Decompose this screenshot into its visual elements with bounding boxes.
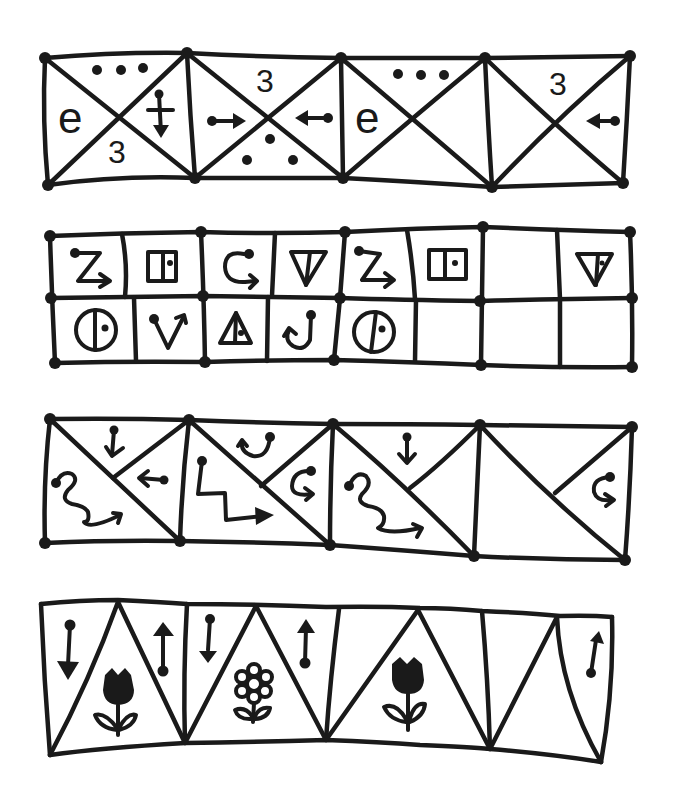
c-hook-symbol xyxy=(594,472,615,506)
c-hook-symbol xyxy=(292,466,316,500)
j-hook-symbol xyxy=(284,310,316,348)
circle-dot-symbol xyxy=(76,310,116,350)
row-4-triangle-pattern xyxy=(41,600,612,762)
row-2-grid-pattern xyxy=(44,221,638,373)
u-hook-symbol xyxy=(238,432,275,456)
number-3-symbol: 3 xyxy=(256,63,274,99)
triangle-down-dot-symbol xyxy=(291,252,326,285)
dots-three-symbol xyxy=(393,69,449,80)
arrow-left-symbol xyxy=(586,113,620,129)
arrow-left-symbol xyxy=(139,471,169,486)
letter-e-symbol: e xyxy=(58,93,82,142)
z-arrow-symbol xyxy=(354,246,394,287)
arrow-down-crossed-symbol xyxy=(148,90,173,139)
v-arrow-symbol xyxy=(149,314,186,348)
door-symbol xyxy=(429,250,466,279)
z-arrow-symbol xyxy=(70,248,110,287)
triangle-up-dot-symbol xyxy=(220,313,251,343)
tulip-symbol xyxy=(95,668,136,735)
letter-e-symbol: e xyxy=(355,93,379,142)
arrow-up-symbol xyxy=(586,631,604,678)
row-3-diagonal-pattern xyxy=(39,413,638,566)
number-3-symbol: 3 xyxy=(549,66,567,102)
wave-arrow-symbol xyxy=(344,474,422,537)
arrow-up-symbol xyxy=(297,619,315,669)
circle-dot-symbol xyxy=(354,312,394,352)
dots-triangle-symbol xyxy=(242,134,298,165)
zigzag-arrow-symbol xyxy=(197,456,274,525)
number-3-symbol: 3 xyxy=(108,134,126,170)
arrow-down-symbol xyxy=(399,433,415,464)
dots-three-symbol xyxy=(92,63,148,75)
arrow-right-symbol xyxy=(207,113,246,129)
pattern-worksheet: e 3 3 e 3 xyxy=(0,0,680,810)
flower-symbol xyxy=(235,664,272,722)
triangle-down-dot-symbol xyxy=(577,254,612,285)
arrow-left-symbol xyxy=(295,110,333,126)
arrow-down-symbol xyxy=(57,620,79,681)
wave-arrow-symbol xyxy=(51,473,121,525)
tulip-symbol xyxy=(384,657,425,730)
door-symbol xyxy=(148,252,176,281)
arrow-up-symbol xyxy=(153,622,174,677)
row-1-square-x-pattern: e 3 3 e 3 xyxy=(39,47,636,193)
arrow-down-symbol xyxy=(199,614,217,663)
c-arrow-symbol xyxy=(225,249,257,288)
arrow-down-symbol xyxy=(106,426,123,457)
